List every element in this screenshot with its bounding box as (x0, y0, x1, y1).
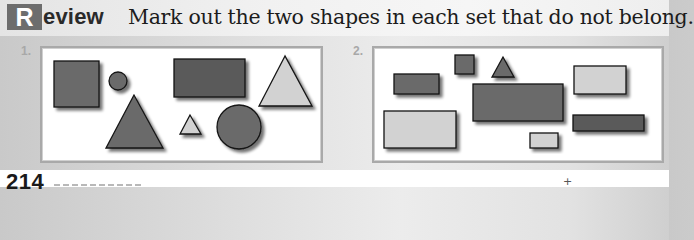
set-1-light-triangle[interactable] (259, 56, 312, 106)
set-2-light-rectangle[interactable] (530, 133, 558, 148)
set-2-dark-square[interactable] (455, 55, 474, 74)
set-2-dark-rectangle[interactable] (473, 84, 563, 121)
set-2-darker-rectangle[interactable] (573, 115, 644, 131)
page-number: 214 (6, 171, 44, 193)
shapes-canvas (0, 0, 669, 187)
set-2-dark-rectangle[interactable] (394, 74, 439, 94)
set-1-light-triangle[interactable] (180, 115, 201, 134)
set-2-light-rectangle[interactable] (384, 111, 456, 148)
set-1-dark-circle[interactable] (217, 105, 261, 149)
set-2-dark-triangle[interactable] (492, 57, 514, 77)
footer-caption-cropped (54, 180, 144, 187)
set-1-darker-rectangle[interactable] (174, 59, 245, 97)
set-1-dark-square[interactable] (54, 61, 99, 107)
registration-mark: + (563, 176, 572, 187)
set-1-dark-triangle[interactable] (106, 95, 163, 148)
set-2-light-rectangle[interactable] (574, 66, 626, 94)
set-1-dark-circle[interactable] (109, 72, 127, 90)
